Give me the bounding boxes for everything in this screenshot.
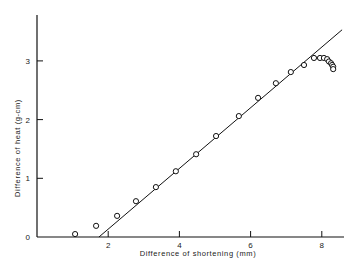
y-tick-label: 0 bbox=[26, 233, 31, 242]
data-point bbox=[288, 69, 293, 74]
data-point bbox=[194, 152, 199, 157]
tick-labels: 24680123 bbox=[26, 57, 325, 250]
data-point bbox=[133, 199, 138, 204]
data-point bbox=[213, 133, 218, 138]
data-point bbox=[255, 95, 260, 100]
data-point bbox=[153, 185, 158, 190]
data-point bbox=[273, 81, 278, 86]
x-axis-title: Difference of shortening (mm) bbox=[140, 249, 256, 258]
y-tick-label: 1 bbox=[26, 174, 31, 183]
y-tick-label: 2 bbox=[26, 116, 31, 125]
data-point bbox=[311, 55, 316, 60]
data-point bbox=[72, 231, 77, 236]
y-tick-label: 3 bbox=[26, 57, 31, 66]
data-point bbox=[301, 62, 306, 67]
data-point bbox=[93, 223, 98, 228]
x-tick-label: 8 bbox=[320, 241, 325, 250]
data-point bbox=[331, 67, 336, 72]
data-points bbox=[72, 55, 335, 236]
scatter-chart: 24680123 Difference of shortening (mm) D… bbox=[0, 0, 359, 267]
fit-line bbox=[99, 30, 342, 237]
data-point bbox=[173, 169, 178, 174]
data-point bbox=[236, 113, 241, 118]
data-point bbox=[115, 213, 120, 218]
axes bbox=[37, 15, 344, 237]
x-tick-label: 2 bbox=[106, 241, 111, 250]
regression-line bbox=[99, 30, 342, 237]
y-axis-title: Difference of heat (g-cm) bbox=[13, 99, 22, 197]
ticks bbox=[37, 61, 322, 237]
